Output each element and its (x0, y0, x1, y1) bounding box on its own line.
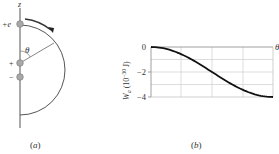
figure-canvas: z θ +e + − (a) (0, 0, 279, 154)
charge-plus-e (17, 21, 24, 28)
panel-a-caption: (a) (30, 140, 41, 150)
y-axis-label-unit: (10 (122, 78, 131, 91)
y-axis-label: Wa (10−30 J) (121, 61, 132, 100)
x-axis-label: θ (275, 42, 279, 52)
panel-b-caption-letter: b (194, 140, 199, 150)
ytick-label-neg4: −4 (137, 92, 147, 102)
panel-a: z θ +e + − (a) (2, 0, 65, 150)
dipole-plus-label: + (9, 59, 14, 68)
theta-label: θ (25, 45, 30, 55)
ytick-label-0: 0 (142, 42, 146, 52)
panel-b-caption: (b) (191, 140, 202, 150)
rotation-arrow-head-icon (48, 27, 54, 33)
dipole-plus-charge (17, 60, 24, 67)
panel-b: 0 −2 −4 θ Wa (10−30 J) (b) (121, 42, 279, 150)
ytick-label-neg2: −2 (137, 67, 146, 77)
charge-plus-e-label: +e (2, 20, 11, 29)
orbit-semicircle (20, 25, 65, 115)
dipole-minus-label: − (9, 73, 14, 82)
y-axis-label-exp: −30 (121, 69, 127, 78)
y-axis-label-tail: J) (122, 61, 131, 69)
z-axis-label: z (17, 0, 22, 9)
dipole-minus-charge (17, 74, 24, 81)
panel-a-caption-letter: a (33, 140, 38, 150)
